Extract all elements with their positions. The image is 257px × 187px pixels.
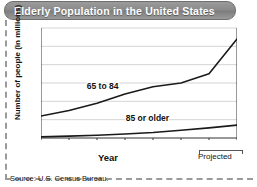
y-axis-title: Number of people (in millions)	[13, 3, 22, 123]
projected-label: Projected	[198, 152, 232, 161]
page-title: Elderly Population in the United States	[5, 5, 215, 17]
series-label-0: 65 to 84	[87, 81, 119, 91]
series-line-1	[41, 125, 237, 137]
chart-figure: Elderly Population in the United States …	[0, 0, 257, 187]
plot-area: 0102030405060195019601970198019902000201…	[41, 26, 237, 140]
chart-title-banner: Elderly Population in the United States	[4, 1, 236, 20]
series-label-1: 85 or older	[126, 113, 170, 123]
line-chart-svg: 0102030405060195019601970198019902000201…	[41, 26, 237, 140]
source-note: Source: U.S. Census Bureau.	[10, 174, 108, 183]
x-axis-title: Year	[0, 152, 216, 163]
series-line-0	[41, 39, 237, 116]
